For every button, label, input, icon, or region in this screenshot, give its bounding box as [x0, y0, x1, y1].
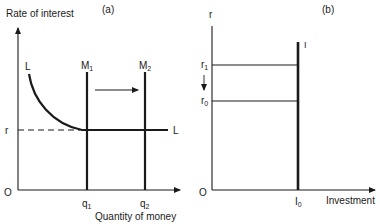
- origin-label-a: O: [4, 187, 12, 198]
- m2-label: M2: [139, 60, 151, 72]
- r-label-a: r: [5, 125, 9, 136]
- q1-label: q1: [82, 198, 92, 210]
- r1-label: r1: [201, 59, 208, 71]
- panel-a: (a) Rate of interest O L L r M1 M2 q1 q2…: [4, 4, 180, 222]
- m1-label: M1: [81, 60, 93, 72]
- y-axis-label-r: r: [209, 9, 213, 20]
- panel-b-label: (b): [322, 4, 334, 15]
- curve-l-label: L: [25, 61, 31, 72]
- diagram-canvas: (a) Rate of interest O L L r M1 M2 q1 q2…: [0, 0, 380, 224]
- panel-b: (b) r O r1 r0 I I0 Investment: [199, 4, 375, 208]
- liquidity-preference-curve: [29, 74, 168, 130]
- curve-l-end-label: L: [173, 125, 179, 136]
- r0-label: r0: [201, 95, 208, 107]
- curve-i-label: I: [304, 40, 307, 50]
- x-axis-label-investment: Investment: [326, 195, 375, 206]
- q2-label: q2: [140, 198, 150, 210]
- y-axis-label-rate-of-interest: Rate of interest: [6, 8, 74, 19]
- origin-label-b: O: [199, 187, 207, 198]
- panel-a-label: (a): [102, 4, 114, 15]
- i0-label: I0: [295, 196, 302, 208]
- x-axis-label-quantity-of-money: Quantity of money: [95, 211, 176, 222]
